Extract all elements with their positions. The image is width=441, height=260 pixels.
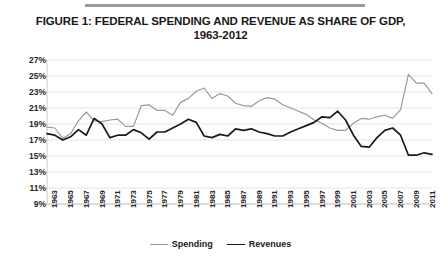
x-axis-tick-label: 1989 <box>255 190 264 208</box>
x-axis-tick-label: 1985 <box>223 190 232 208</box>
x-axis-tick-label: 1995 <box>302 190 311 208</box>
legend-item-revenues: Revenues <box>227 239 292 249</box>
plot-area: 9%11%13%15%17%19%21%23%25%27% 1963196519… <box>0 0 441 260</box>
x-axis-tick-label: 1979 <box>176 190 185 208</box>
x-axis-tick-label: 1999 <box>333 190 342 208</box>
legend-line-swatch <box>150 244 168 245</box>
x-axis-tick-label: 1977 <box>160 190 169 208</box>
x-axis-tick-label: 1975 <box>145 190 154 208</box>
x-axis-tick-label: 1973 <box>129 190 138 208</box>
legend-label: Spending <box>172 239 213 249</box>
x-axis-tick-label: 2001 <box>349 190 358 208</box>
x-axis-labels: 1963196519671969197119731975197719791981… <box>0 0 441 260</box>
legend-line-swatch <box>227 244 245 245</box>
x-axis-tick-label: 1997 <box>318 190 327 208</box>
x-axis-tick-label: 2007 <box>396 190 405 208</box>
legend-item-spending: Spending <box>150 239 213 249</box>
figure-container: FIGURE 1: FEDERAL SPENDING AND REVENUE A… <box>0 0 441 260</box>
x-axis-tick-label: 1971 <box>113 190 122 208</box>
x-axis-tick-label: 2005 <box>380 190 389 208</box>
x-axis-tick-label: 2011 <box>428 191 437 208</box>
x-axis-tick-label: 1991 <box>270 190 279 208</box>
x-axis-tick-label: 1963 <box>50 190 59 208</box>
x-axis-tick-label: 1981 <box>192 190 201 208</box>
chart-legend: SpendingRevenues <box>0 239 441 249</box>
x-axis-tick-label: 2003 <box>365 190 374 208</box>
x-axis-tick-label: 1993 <box>286 190 295 208</box>
x-axis-tick-label: 1969 <box>98 190 107 208</box>
x-axis-tick-label: 1983 <box>208 190 217 208</box>
x-axis-tick-label: 1965 <box>66 190 75 208</box>
legend-label: Revenues <box>249 239 292 249</box>
x-axis-tick-label: 1967 <box>82 190 91 208</box>
x-axis-tick-label: 1987 <box>239 190 248 208</box>
x-axis-tick-label: 2009 <box>412 190 421 208</box>
